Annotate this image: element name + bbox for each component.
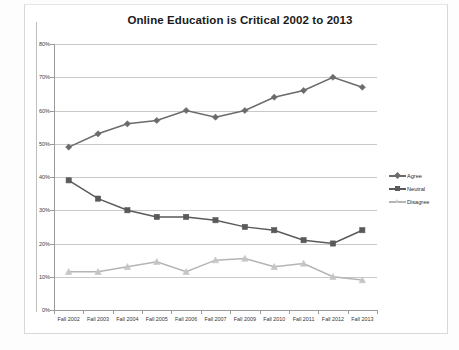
x-tick-label: Fall 2012 (322, 316, 344, 322)
chart-legend: Agree Neutral Disagree (389, 166, 451, 205)
x-tick-label: Fall 2002 (58, 316, 80, 322)
legend-marker-disagree (395, 199, 399, 203)
x-tick-mark (260, 310, 261, 314)
x-tick-mark (201, 310, 202, 314)
data-point (360, 228, 365, 233)
legend-label-neutral: Neutral (407, 186, 425, 192)
legend-item-neutral[interactable]: Neutral (389, 179, 451, 192)
y-tick-label: 80% (28, 41, 50, 47)
data-point (95, 196, 100, 201)
x-tick-mark (289, 310, 290, 314)
data-point (66, 178, 71, 183)
y-axis-tick-labels: 0%10%20%30%40%50%60%70%80% (26, 44, 50, 310)
data-point (330, 74, 336, 80)
series-plot (54, 44, 377, 310)
x-tick-mark (142, 310, 143, 314)
y-tick-label: 30% (28, 207, 50, 213)
x-tick-mark (318, 310, 319, 314)
data-point (95, 131, 101, 137)
data-point (330, 241, 335, 246)
chart-figure: Online Education is Critical 2002 to 201… (0, 0, 459, 350)
data-point (272, 228, 277, 233)
x-axis-line (54, 310, 377, 311)
x-tick-label: Fall 2006 (175, 316, 197, 322)
legend-item-agree[interactable]: Agree (389, 166, 451, 179)
data-point (271, 94, 277, 100)
data-point (212, 114, 218, 120)
y-tick-label: 10% (28, 274, 50, 280)
data-point (359, 84, 365, 90)
y-tick-label: 70% (28, 74, 50, 80)
legend-swatch-disagree (389, 198, 406, 205)
x-tick-label: Fall 2004 (116, 316, 138, 322)
x-tick-label: Fall 2003 (87, 316, 109, 322)
x-tick-label: Fall 2010 (263, 316, 285, 322)
x-tick-label: Fall 2005 (146, 316, 168, 322)
y-tick-label: 50% (28, 141, 50, 147)
series-disagree (65, 255, 365, 283)
x-tick-label: Fall 2011 (293, 316, 315, 322)
x-tick-mark (377, 310, 378, 314)
legend-item-disagree[interactable]: Disagree (389, 192, 451, 205)
series-line (69, 77, 363, 147)
x-tick-label: Fall 2007 (204, 316, 226, 322)
data-point (154, 117, 160, 123)
data-point (242, 107, 248, 113)
data-point (242, 224, 247, 229)
x-tick-mark (171, 310, 172, 314)
chart-title: Online Education is Critical 2002 to 201… (60, 14, 420, 26)
x-tick-mark (230, 310, 231, 314)
data-point (184, 214, 189, 219)
y-tick-label: 60% (28, 108, 50, 114)
y-tick-label: 40% (28, 174, 50, 180)
legend-label-agree: Agree (407, 173, 422, 179)
x-tick-mark (83, 310, 84, 314)
legend-label-disagree: Disagree (407, 199, 429, 205)
y-tick-label: 20% (28, 241, 50, 247)
x-tick-mark (348, 310, 349, 314)
data-point (301, 238, 306, 243)
series-line (69, 180, 363, 243)
data-point (183, 107, 189, 113)
data-point (213, 218, 218, 223)
series-agree (66, 74, 366, 150)
legend-marker-neutral (395, 186, 400, 191)
x-tick-mark (54, 310, 55, 314)
y-tick-label: 0% (28, 307, 50, 313)
data-point (124, 121, 130, 127)
data-point (300, 87, 306, 93)
data-point (154, 214, 159, 219)
x-tick-label: Fall 2013 (351, 316, 373, 322)
data-point (125, 208, 130, 213)
x-tick-label: Fall 2009 (234, 316, 256, 322)
data-point (66, 144, 72, 150)
x-tick-mark (113, 310, 114, 314)
series-neutral (66, 178, 365, 246)
